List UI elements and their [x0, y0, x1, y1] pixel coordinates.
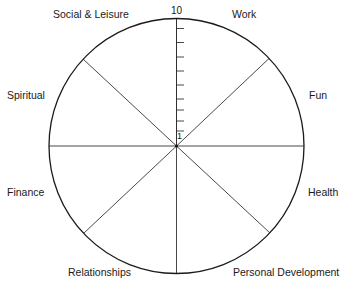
category-label-spiritual: Spiritual: [7, 89, 45, 101]
category-label-relationships: Relationships: [68, 266, 131, 278]
wheel-of-life-diagram: [0, 0, 344, 286]
scale-ticks: [177, 29, 185, 132]
divider-diagonal-lower-right: [177, 146, 271, 233]
divider-diagonal-upper-left: [83, 59, 177, 146]
category-label-work: Work: [232, 8, 256, 20]
scale-max-label: 10: [171, 5, 182, 16]
wheel-center-dot: [175, 144, 178, 147]
divider-diagonal-lower-left: [84, 146, 177, 233]
scale-min-label: 1: [177, 131, 182, 142]
category-label-health: Health: [308, 186, 338, 198]
divider-diagonal-upper-right: [177, 59, 270, 147]
category-label-social-leisure: Social & Leisure: [53, 8, 129, 20]
category-label-finance: Finance: [7, 186, 44, 198]
category-label-fun: Fun: [309, 89, 327, 101]
category-label-personal-development: Personal Development: [233, 266, 339, 278]
